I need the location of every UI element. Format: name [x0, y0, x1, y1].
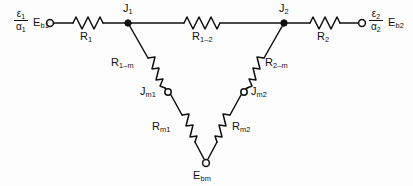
label-resistor-r1-m: R1–m	[111, 57, 134, 68]
resistor-rm1-zigzag	[182, 114, 197, 142]
junction-node-jm1	[165, 89, 171, 95]
circuit-diagram-svg	[0, 0, 413, 186]
wire-jm2-rm2	[230, 95, 241, 115]
emissivity-denominator-left: α1	[14, 21, 28, 32]
label-eb1: Eb1	[33, 17, 49, 28]
resistor-rm2-zigzag	[215, 114, 230, 142]
wire-j2-r2m	[264, 23, 284, 58]
junction-node-jm2	[241, 89, 247, 95]
label-resistor-r1-2: R1–2	[192, 31, 213, 42]
emissivity-numerator-left: ε1	[14, 9, 28, 20]
label-j1: J1	[123, 3, 133, 14]
junction-node-j2	[281, 20, 287, 26]
label-jm2: Jm2	[251, 86, 267, 97]
label-j2: J2	[279, 3, 289, 14]
emissivity-fraction-left: ε1 α1	[14, 9, 28, 32]
label-eb2: Eb2	[388, 17, 404, 28]
emissivity-numerator-right: ε2	[369, 9, 383, 20]
terminal-node-ebm	[203, 160, 210, 167]
resistor-r1m-zigzag	[148, 57, 165, 88]
resistor-r2-zigzag	[310, 17, 340, 29]
wire-rm2-ebm	[208, 142, 217, 159]
label-resistor-rm1: Rm1	[152, 121, 171, 132]
resistor-r2m-zigzag	[247, 57, 264, 88]
label-resistor-r1: R1	[80, 31, 92, 42]
label-jm1: Jm1	[140, 86, 156, 97]
label-resistor-r2-m: R2–m	[265, 57, 288, 68]
emissivity-denominator-right: α2	[369, 21, 383, 32]
resistor-r1-zigzag	[73, 17, 103, 29]
junction-node-j1	[125, 20, 131, 26]
wire-j1-r1m	[128, 23, 148, 58]
radiation-network-figure: ε1 α1 Eb1 ε2 α2 Eb2 J1 J2 Jm1 Jm2 Ebm R1…	[0, 0, 413, 186]
label-resistor-rm2: Rm2	[232, 121, 251, 132]
emissivity-fraction-right: ε2 α2	[369, 9, 383, 32]
resistor-r12-zigzag	[184, 17, 220, 29]
wire-rm1-ebm	[195, 142, 204, 159]
terminal-node-eb2	[359, 20, 366, 27]
label-ebm: Ebm	[193, 170, 211, 181]
wire-jm1-rm1	[171, 95, 182, 115]
label-resistor-r2: R2	[317, 31, 329, 42]
